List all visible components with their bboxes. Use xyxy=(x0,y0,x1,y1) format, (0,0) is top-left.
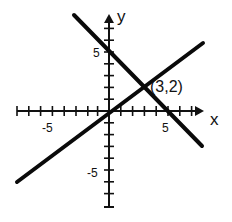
y-axis-label: y xyxy=(117,7,126,26)
intersection-label: (3,2) xyxy=(150,78,183,95)
coordinate-plane: y x -5 5 5 -5 (3,2) xyxy=(0,0,232,222)
x-axis-label: x xyxy=(210,110,219,129)
x-tick-label-neg5: -5 xyxy=(42,121,53,135)
y-axis-arrow-icon xyxy=(104,14,114,23)
x-axis-arrow-icon xyxy=(195,106,204,116)
y-tick-label-neg5: -5 xyxy=(87,166,98,180)
x-tick-label-pos5: 5 xyxy=(162,121,169,135)
y-tick-label-pos5: 5 xyxy=(93,46,100,60)
